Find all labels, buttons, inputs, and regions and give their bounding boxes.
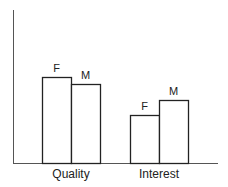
category-label-interest: Interest	[139, 167, 180, 181]
series-label-f: F	[141, 100, 148, 112]
bar-interest-m	[160, 101, 189, 164]
series-label-f: F	[53, 62, 60, 74]
series-label-m: M	[169, 85, 178, 97]
bars-group	[43, 78, 189, 164]
bar-quality-m	[72, 85, 101, 164]
bar-chart: FMQualityFMInterest	[0, 0, 228, 187]
series-label-m: M	[81, 69, 90, 81]
category-label-quality: Quality	[52, 167, 89, 181]
bar-interest-f	[131, 116, 160, 164]
bar-quality-f	[43, 78, 72, 164]
